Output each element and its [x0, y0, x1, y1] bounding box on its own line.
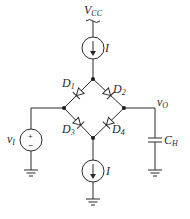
d2-label: D2: [112, 82, 126, 97]
output-hold-capacitor: vO CH: [124, 95, 179, 176]
minus-sign: −: [29, 141, 34, 150]
top-node: [91, 77, 95, 81]
circuit-diagram: VCC I: [0, 0, 190, 219]
d3-label: D3: [61, 122, 75, 137]
arrow-down-icon: [90, 174, 96, 179]
bottom-current-source: I: [82, 138, 111, 205]
d4-label: D4: [111, 122, 125, 137]
vcc-label-sub: CC: [91, 9, 102, 18]
top-current-label: I: [104, 41, 110, 55]
svg-text:VCC: VCC: [84, 3, 103, 18]
vo-label: vO: [157, 95, 168, 110]
input-voltage-source: + − vI: [7, 108, 64, 176]
bottom-current-label: I: [105, 164, 111, 178]
plus-sign: +: [28, 132, 33, 141]
top-current-source: I: [82, 37, 110, 79]
ground-icon: [148, 170, 162, 176]
circuit-svg: VCC I: [0, 0, 190, 219]
vi-label: vI: [7, 132, 15, 147]
vcc-supply: VCC: [84, 3, 103, 37]
ground-icon: [86, 199, 100, 205]
ch-label: CH: [164, 133, 179, 148]
arrow-down-icon: [90, 51, 96, 56]
d1-label: D1: [61, 76, 75, 91]
diode-bridge: D1 D2 D3 D4: [61, 76, 126, 140]
ground-icon: [24, 170, 38, 176]
